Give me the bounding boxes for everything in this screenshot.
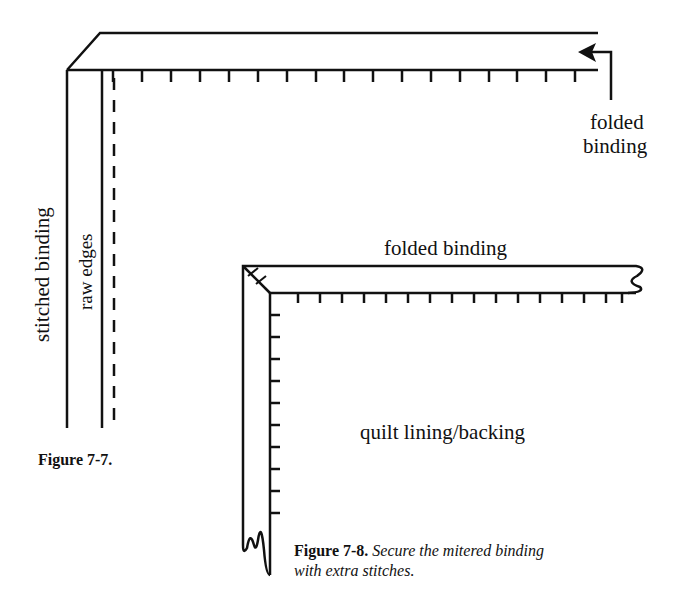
horizontal-stitch-ticks (298, 293, 622, 303)
top-stitch-ticks (113, 70, 575, 82)
folded-binding-label-fig8: folded binding (384, 238, 507, 259)
figure-7-8-caption: Figure 7-8. Secure the mitered binding w… (294, 541, 544, 581)
mitered-binding-outer (243, 266, 642, 545)
figure-7-8-caption-title: Figure 7-8. (294, 542, 368, 559)
folded-binding-label-line2: binding (583, 136, 647, 157)
quilt-lining-label: quilt lining/backing (360, 422, 525, 443)
binding-outer-edge (67, 33, 598, 70)
figure-7-8-caption-text2: with extra stitches. (294, 562, 414, 579)
diagram-canvas (0, 0, 682, 607)
figure-7-7-drawing (67, 33, 611, 428)
raw-edges-label: raw edges (76, 234, 95, 311)
vertical-stitch-ticks (270, 315, 280, 513)
figure-7-7-caption: Figure 7-7. (38, 450, 112, 470)
figure-7-8-caption-text1: Secure the mitered binding (372, 542, 544, 559)
bottom-squiggle (243, 532, 270, 575)
folded-binding-label-line1: folded (590, 112, 644, 133)
stitched-binding-label: stitched binding (32, 207, 53, 342)
